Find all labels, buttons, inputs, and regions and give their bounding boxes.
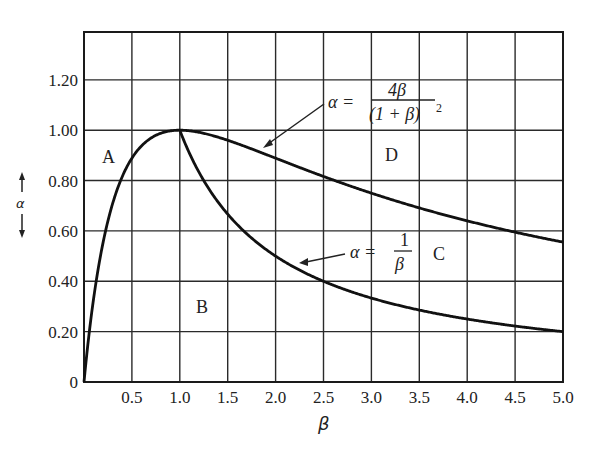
region-c-label: C	[433, 244, 445, 264]
svg-text:1: 1	[400, 230, 409, 250]
arrow-down-icon	[19, 230, 25, 238]
svg-text:α =: α =	[328, 92, 354, 112]
y-tick-label: 0	[70, 373, 79, 392]
x-tick-label: 3.0	[361, 388, 382, 407]
y-tick-label: 0.40	[48, 272, 78, 291]
equation-1-annotation: α = 4β (1 + β) 2	[263, 80, 442, 148]
y-tick-labels: 00.200.400.600.801.001.20	[48, 71, 78, 392]
arrow-icon	[263, 139, 273, 148]
y-tick-label: 0.20	[48, 323, 78, 342]
region-a-label: A	[102, 147, 115, 167]
x-tick-label: 4.0	[457, 388, 478, 407]
arrow-icon	[299, 258, 308, 266]
region-d-label: D	[385, 145, 398, 165]
region-b-label: B	[196, 297, 208, 317]
svg-text:4β: 4β	[388, 80, 406, 100]
x-tick-label: 1.0	[169, 388, 190, 407]
x-tick-label: 0.5	[121, 388, 142, 407]
y-tick-label: 1.00	[48, 121, 78, 140]
x-tick-labels: 0.51.01.52.02.53.03.54.04.55.0	[121, 388, 573, 407]
y-tick-label: 0.80	[48, 172, 78, 191]
svg-text:2: 2	[436, 101, 442, 115]
y-axis-label: α	[16, 172, 25, 238]
arrow-up-icon	[19, 172, 25, 180]
y-tick-label: 1.20	[48, 71, 78, 90]
x-tick-label: 3.5	[409, 388, 430, 407]
svg-text:α: α	[16, 196, 25, 211]
x-tick-label: 5.0	[552, 388, 573, 407]
chart: 00.200.400.600.801.001.20 0.51.01.52.02.…	[0, 0, 592, 459]
equation-2-annotation: α = 1 β	[299, 230, 412, 274]
x-tick-label: 4.5	[504, 388, 525, 407]
x-axis-label: β	[317, 413, 330, 434]
y-tick-label: 0.60	[48, 222, 78, 241]
svg-text:(1 + β): (1 + β)	[369, 104, 420, 125]
svg-text:α =: α =	[350, 242, 376, 262]
grid-lines	[84, 32, 563, 382]
x-tick-label: 2.5	[313, 388, 334, 407]
x-tick-label: 1.5	[217, 388, 238, 407]
x-tick-label: 2.0	[265, 388, 286, 407]
svg-text:β: β	[394, 254, 404, 274]
